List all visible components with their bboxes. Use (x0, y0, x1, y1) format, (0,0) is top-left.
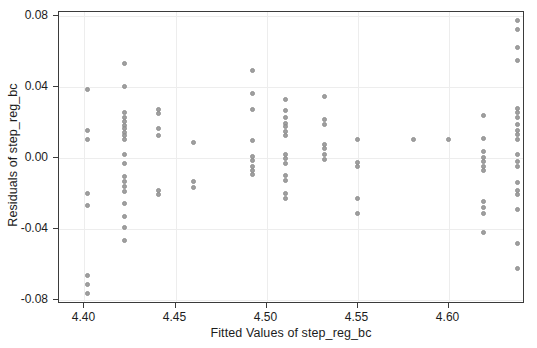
scatter-plot: Residuals of step_reg_bc Fitted Values o… (0, 0, 537, 348)
data-point (481, 136, 486, 141)
x-tick-mark-3 (357, 303, 358, 308)
data-point (322, 157, 327, 162)
x-tick-label-2: 4.50 (254, 310, 277, 324)
data-point (122, 214, 127, 219)
data-point (122, 184, 127, 189)
data-point (122, 110, 127, 115)
data-point (283, 108, 288, 113)
data-point (515, 122, 520, 127)
data-point (85, 273, 90, 278)
data-point (515, 266, 520, 271)
data-point (481, 230, 486, 235)
gridline-horizontal-2 (59, 158, 523, 159)
data-point (515, 192, 520, 197)
data-point (515, 152, 520, 157)
y-tick-mark-3 (53, 228, 58, 229)
x-tick-mark-2 (266, 303, 267, 308)
gridline-horizontal-4 (59, 300, 523, 301)
data-point (250, 138, 255, 143)
y-tick-mark-4 (53, 299, 58, 300)
y-tick-label-0: 0.08 (4, 8, 48, 22)
data-point (122, 225, 127, 230)
gridline-horizontal-0 (59, 16, 523, 17)
y-tick-label-2: 0.00 (4, 150, 48, 164)
data-point (355, 164, 360, 169)
data-point (191, 140, 196, 145)
data-point (250, 68, 255, 73)
data-point (85, 203, 90, 208)
x-tick-label-3: 4.55 (345, 310, 368, 324)
y-tick-label-1: 0.04 (4, 79, 48, 93)
data-point (481, 149, 486, 154)
gridline-vertical-4 (449, 12, 450, 302)
data-point (122, 201, 127, 206)
data-point (122, 137, 127, 142)
x-tick-label-0: 4.40 (72, 310, 95, 324)
data-point (85, 191, 90, 196)
data-point (122, 161, 127, 166)
data-point (85, 291, 90, 296)
plot-panel (58, 11, 524, 303)
data-point (481, 211, 486, 216)
data-point (85, 137, 90, 142)
data-point (156, 111, 161, 116)
data-point (122, 189, 127, 194)
data-point (515, 241, 520, 246)
x-axis-title: Fitted Values of step_reg_bc (58, 326, 524, 340)
x-tick-mark-1 (175, 303, 176, 308)
data-point (515, 164, 520, 169)
data-point (481, 205, 486, 210)
gridline-vertical-3 (358, 12, 359, 302)
data-point (355, 196, 360, 201)
data-point (322, 152, 327, 157)
data-point (122, 152, 127, 157)
data-point (515, 45, 520, 50)
data-point (515, 110, 520, 115)
data-point (156, 192, 161, 197)
data-point (283, 196, 288, 201)
gridline-vertical-2 (267, 12, 268, 302)
data-point (122, 61, 127, 66)
data-point (515, 27, 520, 32)
data-point (250, 158, 255, 163)
data-point (191, 185, 196, 190)
data-point (515, 18, 520, 23)
gridline-vertical-1 (176, 12, 177, 302)
data-point (250, 172, 255, 177)
data-point (355, 137, 360, 142)
data-point (515, 137, 520, 142)
data-point (322, 122, 327, 127)
data-point (191, 179, 196, 184)
data-point (156, 126, 161, 131)
data-point (85, 87, 90, 92)
data-point (481, 113, 486, 118)
data-point (283, 97, 288, 102)
x-tick-label-1: 4.45 (163, 310, 186, 324)
data-point (122, 238, 127, 243)
y-tick-label-4: -0.08 (4, 292, 48, 306)
y-tick-mark-0 (53, 15, 58, 16)
data-point (122, 179, 127, 184)
y-tick-mark-2 (53, 157, 58, 158)
gridline-horizontal-1 (59, 87, 523, 88)
data-point (122, 84, 127, 89)
y-tick-label-3: -0.04 (4, 221, 48, 235)
data-point (85, 282, 90, 287)
data-point (283, 178, 288, 183)
data-point (322, 94, 327, 99)
data-point (283, 115, 288, 120)
data-point (481, 168, 486, 173)
data-point (250, 107, 255, 112)
data-point (156, 133, 161, 138)
data-point (85, 128, 90, 133)
data-point (322, 146, 327, 151)
x-tick-label-4: 4.60 (436, 310, 459, 324)
data-point (515, 207, 520, 212)
x-tick-mark-0 (83, 303, 84, 308)
data-point (446, 137, 451, 142)
data-point (283, 133, 288, 138)
data-point (283, 161, 288, 166)
x-tick-mark-4 (448, 303, 449, 308)
data-point (481, 199, 486, 204)
data-point (515, 180, 520, 185)
